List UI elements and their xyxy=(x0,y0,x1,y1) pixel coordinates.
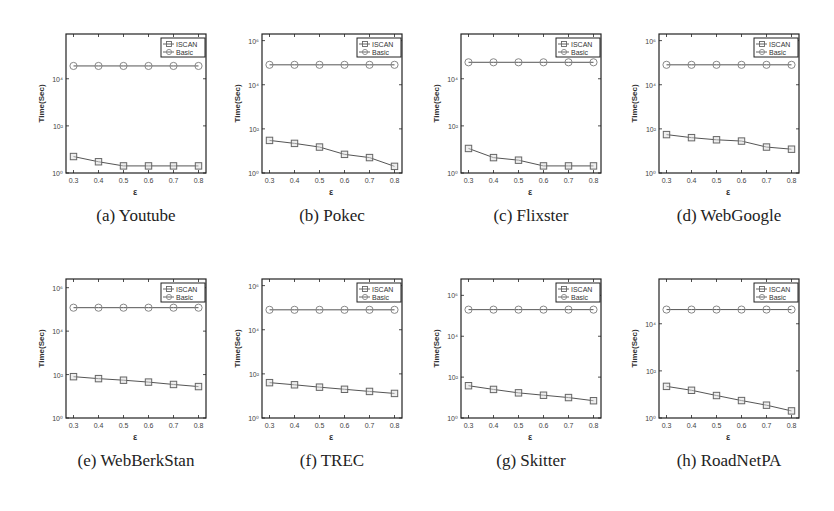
y-tick-label: 10⁶ xyxy=(248,38,259,45)
square-marker xyxy=(366,388,372,394)
legend-label-iscan: ISCAN xyxy=(176,286,197,293)
legend-label-iscan: ISCAN xyxy=(769,286,790,293)
series-line-iscan xyxy=(74,157,199,166)
x-tick-label: 0.3 xyxy=(464,422,474,429)
y-tick-label: 10⁰ xyxy=(645,415,656,422)
square-marker xyxy=(540,163,546,169)
square-marker xyxy=(713,137,719,143)
y-axis-label: Time(Sec) xyxy=(37,318,46,378)
square-marker xyxy=(738,397,744,403)
x-tick-label: 0.6 xyxy=(737,422,747,429)
subplot-caption: (h) RoadNetPA xyxy=(629,451,829,471)
square-marker xyxy=(540,392,546,398)
x-tick-label: 0.8 xyxy=(589,422,599,429)
y-tick-label: 10⁴ xyxy=(645,82,656,89)
square-marker xyxy=(590,398,596,404)
x-tick-label: 0.4 xyxy=(489,422,499,429)
y-tick-label: 10⁰ xyxy=(645,170,656,177)
x-tick-label: 0.6 xyxy=(340,177,350,184)
plot-area: 0.30.40.50.60.70.810⁰10²10⁴ISCANBasic xyxy=(30,22,230,197)
x-tick-label: 0.4 xyxy=(94,177,104,184)
subplot-caption: (e) WebBerkStan xyxy=(36,451,236,471)
square-marker xyxy=(515,390,521,396)
legend: ISCANBasic xyxy=(357,283,401,302)
plot-area: 0.30.40.50.60.70.810⁰10²10⁴10⁶ISCANBasic xyxy=(226,22,426,197)
x-tick-label: 0.7 xyxy=(564,177,574,184)
square-marker xyxy=(95,375,101,381)
square-marker xyxy=(590,163,596,169)
y-tick-label: 10⁶ xyxy=(52,285,63,292)
legend-label-basic: Basic xyxy=(176,294,194,301)
subplot-trec: 0.30.40.50.60.70.810⁰10²10⁴10⁶ISCANBasic… xyxy=(226,267,426,507)
y-axis-label: Time(Sec) xyxy=(37,73,46,133)
y-tick-label: 10² xyxy=(53,372,64,379)
square-marker xyxy=(688,134,694,140)
square-marker xyxy=(366,154,372,160)
y-tick-label: 10² xyxy=(249,126,260,133)
x-tick-label: 0.3 xyxy=(464,177,474,184)
legend: ISCANBasic xyxy=(754,38,798,57)
square-marker xyxy=(763,402,769,408)
square-marker xyxy=(663,383,669,389)
series-line-iscan xyxy=(469,386,594,401)
legend: ISCANBasic xyxy=(754,283,798,302)
square-marker xyxy=(266,379,272,385)
legend-label-basic: Basic xyxy=(769,294,787,301)
subplot-caption: (f) TREC xyxy=(232,451,432,471)
square-marker xyxy=(195,163,201,169)
x-tick-label: 0.3 xyxy=(265,177,275,184)
x-tick-label: 0.5 xyxy=(315,422,325,429)
y-tick-label: 10² xyxy=(646,126,657,133)
subplot-skitter: 0.30.40.50.60.70.810⁰10²10⁴10⁶ISCANBasic… xyxy=(425,267,625,507)
legend-label-iscan: ISCAN xyxy=(571,286,592,293)
square-marker xyxy=(515,157,521,163)
square-marker xyxy=(291,382,297,388)
x-axis-label: ε xyxy=(329,432,333,442)
square-marker xyxy=(316,144,322,150)
y-tick-label: 10⁶ xyxy=(248,283,259,290)
x-tick-label: 0.4 xyxy=(687,422,697,429)
y-axis-label: Time(Sec) xyxy=(233,318,242,378)
x-tick-label: 0.7 xyxy=(365,422,375,429)
square-marker xyxy=(465,383,471,389)
y-tick-label: 10⁴ xyxy=(645,321,656,328)
legend: ISCANBasic xyxy=(556,38,600,57)
square-marker xyxy=(120,377,126,383)
x-tick-label: 0.3 xyxy=(662,177,672,184)
plot-area: 0.30.40.50.60.70.810⁰10²10⁴ISCANBasic xyxy=(623,267,823,442)
square-marker xyxy=(565,394,571,400)
y-tick-label: 10⁰ xyxy=(248,415,259,422)
y-tick-label: 10⁴ xyxy=(248,82,259,89)
legend-label-basic: Basic xyxy=(372,49,390,56)
square-marker xyxy=(195,383,201,389)
x-tick-label: 0.8 xyxy=(787,177,797,184)
square-marker xyxy=(490,386,496,392)
x-tick-label: 0.7 xyxy=(365,177,375,184)
square-marker xyxy=(490,154,496,160)
subplot-caption: (b) Pokec xyxy=(232,206,432,226)
square-marker xyxy=(70,153,76,159)
x-tick-label: 0.4 xyxy=(290,177,300,184)
x-tick-label: 0.8 xyxy=(390,177,400,184)
legend: ISCANBasic xyxy=(556,283,600,302)
x-tick-label: 0.8 xyxy=(194,422,204,429)
legend-label-iscan: ISCAN xyxy=(571,41,592,48)
x-tick-label: 0.3 xyxy=(69,422,79,429)
x-tick-label: 0.6 xyxy=(144,422,154,429)
legend-label-iscan: ISCAN xyxy=(769,41,790,48)
square-marker xyxy=(688,387,694,393)
square-marker xyxy=(95,159,101,165)
x-axis-label: ε xyxy=(528,432,532,442)
x-tick-label: 0.6 xyxy=(144,177,154,184)
subplot-caption: (a) Youtube xyxy=(36,206,236,226)
x-tick-label: 0.8 xyxy=(194,177,204,184)
subplot-caption: (g) Skitter xyxy=(431,451,631,471)
square-marker xyxy=(145,163,151,169)
x-tick-label: 0.6 xyxy=(340,422,350,429)
square-marker xyxy=(738,138,744,144)
y-tick-label: 10⁶ xyxy=(645,38,656,45)
x-tick-label: 0.5 xyxy=(514,177,524,184)
y-axis-label: Time(Sec) xyxy=(630,73,639,133)
square-marker xyxy=(565,163,571,169)
square-marker xyxy=(391,163,397,169)
